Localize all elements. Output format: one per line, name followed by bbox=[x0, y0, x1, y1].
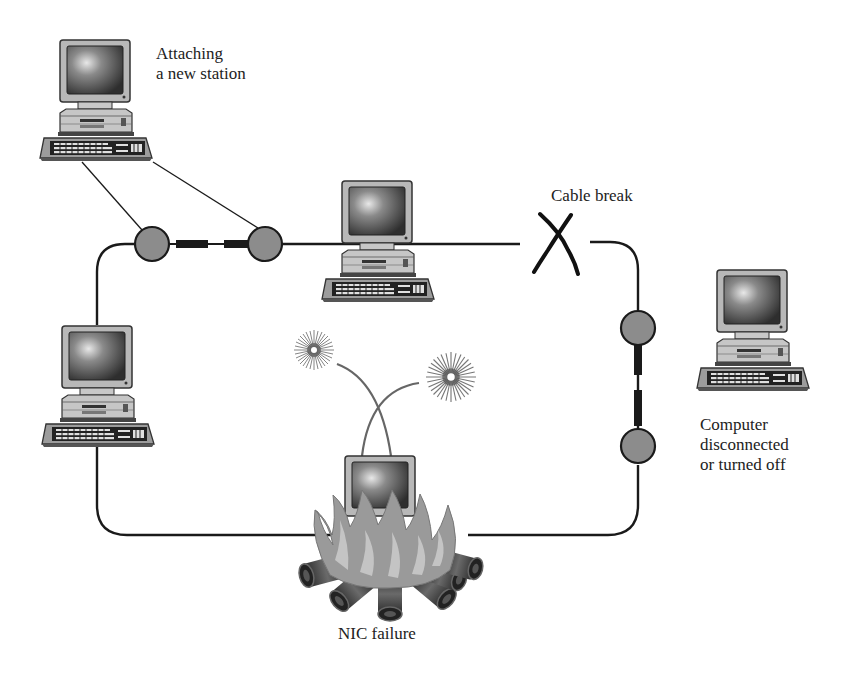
label-computer-disconnected: Computer disconnected or turned off bbox=[700, 415, 789, 475]
computer-new-station bbox=[40, 40, 152, 161]
label-line: or turned off bbox=[700, 455, 789, 475]
computer-disconnected bbox=[697, 270, 809, 391]
label-line: a new station bbox=[156, 64, 246, 84]
computer-ring-top bbox=[322, 181, 434, 302]
connector-right-lower bbox=[621, 429, 655, 463]
label-nic-failure: NIC failure bbox=[338, 624, 416, 644]
label-line: disconnected bbox=[700, 435, 789, 455]
connector-top-right bbox=[248, 227, 282, 261]
spark-icon bbox=[294, 330, 334, 370]
label-line: NIC failure bbox=[338, 624, 416, 643]
label-line: Attaching bbox=[156, 44, 246, 64]
ring-topology-diagram bbox=[0, 0, 849, 677]
label-line: Cable break bbox=[551, 186, 633, 205]
label-cable-break: Cable break bbox=[551, 186, 633, 206]
new-station-drop-cables bbox=[82, 162, 258, 230]
connector-top-left bbox=[135, 227, 169, 261]
connector-right-upper bbox=[621, 311, 655, 345]
computer-ring-left bbox=[42, 326, 154, 447]
nic-antennas bbox=[337, 364, 419, 456]
label-line: Computer bbox=[700, 415, 789, 435]
label-attaching-new-station: Attaching a new station bbox=[156, 44, 246, 84]
spark-icon bbox=[426, 352, 476, 402]
computer-nic-failure bbox=[297, 456, 486, 621]
cable-break-icon bbox=[534, 214, 578, 274]
